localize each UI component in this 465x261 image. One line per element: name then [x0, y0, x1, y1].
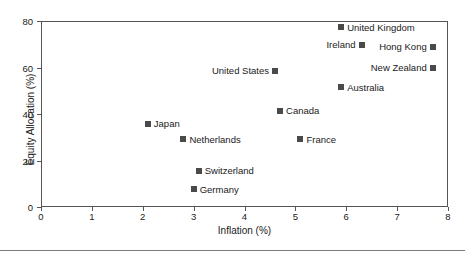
scatter-chart-figure: 012345678020406080 United KingdomIreland…: [0, 0, 465, 261]
data-point-label: Japan: [154, 117, 180, 130]
x-axis-title: Inflation (%): [41, 225, 448, 236]
data-point-label: Germany: [200, 183, 239, 196]
data-point-marker: [272, 68, 278, 74]
data-point-label: United Kingdom: [347, 21, 415, 34]
data-point-marker: [180, 136, 186, 142]
data-point-marker: [338, 24, 344, 30]
data-point-label: Australia: [347, 81, 384, 94]
x-axis-tick-label: 3: [191, 211, 196, 222]
x-axis-tick-label: 0: [38, 211, 43, 222]
x-axis-tick-label: 1: [89, 211, 94, 222]
data-point-label: United States: [212, 64, 269, 77]
data-point-marker: [277, 108, 283, 114]
data-point-marker: [196, 168, 202, 174]
x-axis-tick-label: 4: [242, 211, 247, 222]
y-axis-tick: [37, 161, 41, 162]
footer-divider: [0, 250, 465, 251]
data-point-label: France: [306, 133, 336, 146]
data-point-label: Ireland: [326, 38, 355, 51]
y-axis-tick-label: 80: [22, 16, 33, 27]
y-axis-tick: [37, 21, 41, 22]
data-point-label: New Zealand: [371, 61, 427, 74]
data-point-marker: [430, 44, 436, 50]
x-axis-tick-label: 5: [293, 211, 298, 222]
y-axis-tick: [37, 114, 41, 115]
y-axis-tick: [37, 68, 41, 69]
data-point-marker: [145, 121, 151, 127]
y-axis-title: Equity Allocation (%): [25, 30, 36, 210]
data-point-marker: [338, 84, 344, 90]
data-point-label: Switzerland: [205, 164, 254, 177]
data-point-label: Netherlands: [189, 133, 240, 146]
data-point-label: Hong Kong: [379, 40, 427, 53]
data-point-label: Canada: [286, 104, 319, 117]
x-axis-tick-label: 2: [140, 211, 145, 222]
x-axis-tick-label: 7: [394, 211, 399, 222]
data-point-marker: [430, 65, 436, 71]
data-point-marker: [297, 136, 303, 142]
data-point-marker: [191, 186, 197, 192]
data-point-marker: [359, 42, 365, 48]
x-axis-tick-label: 6: [344, 211, 349, 222]
x-axis-tick-label: 8: [445, 211, 450, 222]
y-axis-tick: [37, 207, 41, 208]
